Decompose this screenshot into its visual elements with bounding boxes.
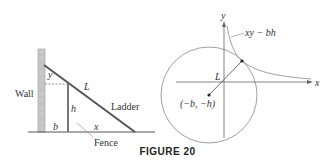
L-label-right: L (214, 71, 221, 82)
curve-label: xy − bh (244, 27, 276, 38)
ladder-diagram (28, 49, 155, 137)
figure-caption: FIGURE 20 (0, 146, 335, 157)
center-point (207, 93, 210, 96)
curve-pointer (231, 33, 244, 37)
distance-segment (209, 61, 242, 95)
L-label-left: L (83, 81, 90, 92)
figure-canvas: Wall y L h Ladder b x Fence y x xy − bh … (0, 0, 335, 166)
y-axis-label: y (220, 10, 226, 21)
point-label: (−b, −h) (180, 98, 216, 110)
b-label: b (53, 121, 58, 132)
coordinate-plot (161, 21, 313, 143)
tangent-point (240, 59, 243, 62)
y-axis-arrow-icon (222, 21, 226, 27)
wall-label: Wall (15, 88, 34, 99)
wall-shape (38, 49, 45, 132)
ladder-label: Ladder (111, 101, 140, 112)
x-axis-arrow-icon (307, 80, 313, 84)
y-label: y (47, 69, 53, 80)
h-label: h (71, 103, 76, 114)
fence-pointer (77, 123, 93, 137)
x-label-left: x (93, 121, 99, 132)
x-axis-label: x (314, 77, 320, 88)
